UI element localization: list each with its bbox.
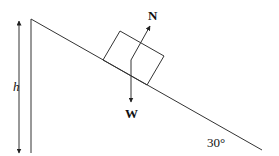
weight-label: W bbox=[125, 107, 138, 120]
height-label: h bbox=[13, 80, 20, 93]
angle-label: 30° bbox=[207, 136, 225, 149]
inclined-plane-diagram bbox=[0, 0, 279, 156]
normal-force-arrow bbox=[131, 26, 150, 60]
block bbox=[103, 31, 164, 85]
normal-force-label: N bbox=[148, 9, 157, 22]
